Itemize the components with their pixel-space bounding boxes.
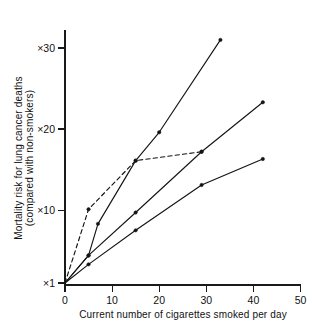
y-tick-label-1: ×1 [43,277,55,289]
series-steep-point [219,38,222,41]
x-tick-label-20: 20 [153,294,165,306]
y-axis-ticks [58,48,65,283]
series-steep-point [96,222,99,225]
y-axis-tick-labels: ×1×10×20×30 [37,42,55,289]
x-tick-label-30: 30 [200,294,212,306]
y-tick-label-30: ×30 [37,42,55,54]
series-shallow-point [134,229,137,232]
x-tick-label-40: 40 [248,294,260,306]
series-steep-point [158,131,161,134]
series-dashed-point [87,208,90,211]
y-axis-title-line1: Mortality risk for lung cancer deaths [13,76,24,239]
y-tick-label-20: ×20 [37,123,55,135]
chart-figure: ×1×10×20×30 01020304050 Current number o… [0,0,323,329]
series-steep-point [134,159,137,162]
y-axis-title-line2: (compared with non-smokers) [24,90,35,226]
series-shallow-point [200,183,203,186]
series-middle-point [134,211,137,214]
series-shallow-point [87,263,90,266]
series-steep-line [65,40,220,283]
series-middle-line [65,102,263,283]
x-axis-ticks [65,285,301,292]
series-middle-point [200,150,203,153]
series-dashed-line [65,152,202,283]
x-axis-title: Current number of cigarettes smoked per … [79,309,287,320]
series-shallow-point [261,157,264,160]
series-middle-point [261,101,264,104]
series-middle-point [87,254,90,257]
series-shallow-line [65,159,263,283]
x-tick-label-0: 0 [62,294,68,306]
line-chart: ×1×10×20×30 01020304050 Current number o… [0,0,323,329]
y-axis: ×1×10×20×30 [37,30,65,289]
x-tick-label-50: 50 [295,294,307,306]
y-tick-label-10: ×10 [37,204,55,216]
x-axis: 01020304050 [62,285,306,306]
x-axis-tick-labels: 01020304050 [62,294,306,306]
x-tick-label-10: 10 [106,294,118,306]
data-series-group [65,38,265,283]
